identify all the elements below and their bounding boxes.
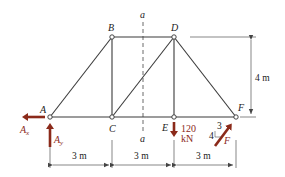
force-f-label: F [223, 135, 231, 146]
load-e-unit: kN [181, 133, 193, 144]
joint-e [172, 115, 176, 119]
slope-triangle-icon [215, 131, 221, 137]
reaction-ax-label: Ax [19, 124, 30, 137]
truss-diagram: a a A B C D E F 4 m 3 m 3 m 3 m Ax [0, 0, 285, 177]
section-label-bottom: a [140, 133, 145, 144]
joint-c [110, 115, 114, 119]
joint-label-f: F [237, 102, 245, 113]
member-cd [112, 37, 174, 117]
joint-label-e: E [161, 122, 168, 133]
section-label-top: a [140, 9, 145, 20]
joint-a [48, 115, 52, 119]
joint-f [234, 115, 238, 119]
span1-label: 3 m [72, 151, 87, 161]
span3-label: 3 m [196, 151, 211, 161]
reaction-ay-label: Ay [53, 134, 64, 147]
height-dimension-label: 4 m [255, 73, 270, 83]
member-ab [50, 37, 112, 117]
slope-run-label: 4 [209, 131, 214, 141]
slope-rise-label: 3 [217, 121, 222, 131]
joint-label-c: C [109, 123, 116, 134]
joint-d [172, 35, 176, 39]
span2-label: 3 m [134, 151, 149, 161]
joint-label-a: A [39, 104, 47, 115]
joint-label-b: B [108, 22, 114, 33]
joint-label-d: D [170, 22, 179, 33]
truss-members [50, 37, 236, 117]
joint-b [110, 35, 114, 39]
member-df [174, 37, 236, 117]
